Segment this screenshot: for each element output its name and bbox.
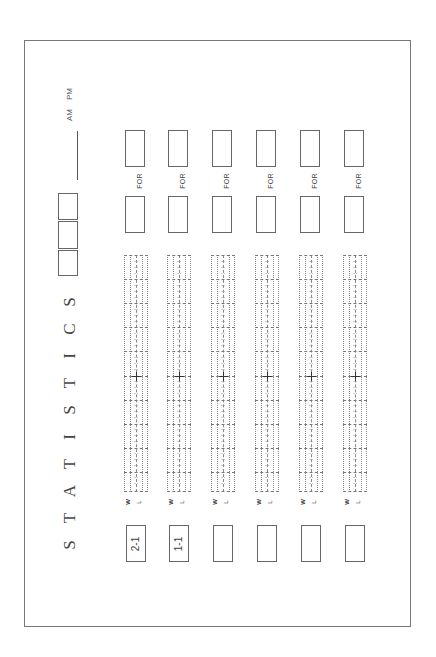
time-line[interactable] — [77, 131, 78, 180]
grid-minor-line — [309, 459, 313, 460]
result-box-5[interactable] — [301, 525, 321, 562]
grid-minor-line — [177, 441, 181, 442]
crosshair-icon — [179, 372, 180, 381]
grid-minor-line — [353, 429, 357, 430]
grid-inner-line — [130, 255, 131, 492]
grid-minor-line — [265, 321, 269, 322]
grid-major-line — [211, 351, 235, 352]
pm-label[interactable]: PM — [64, 82, 76, 106]
grid-minor-line — [353, 405, 357, 406]
grid-minor-line — [221, 321, 225, 322]
grid-minor-line — [221, 381, 225, 382]
grid-major-line — [124, 279, 148, 280]
grid-minor-line — [134, 309, 138, 310]
grid-minor-line — [221, 387, 225, 388]
score-box-top-6[interactable] — [344, 130, 364, 167]
grid-minor-line — [265, 345, 269, 346]
loss-label: L — [135, 498, 143, 506]
result-text — [217, 526, 229, 562]
grid-minor-line — [177, 339, 181, 340]
score-box-top-1[interactable] — [125, 130, 145, 167]
score-box-for-1[interactable] — [125, 196, 145, 233]
grid-minor-line — [309, 261, 313, 262]
grid-minor-line — [134, 411, 138, 412]
score-box-top-2[interactable] — [168, 130, 188, 167]
grid-minor-line — [221, 261, 225, 262]
score-box-for-5[interactable] — [300, 196, 320, 233]
grid-minor-line — [221, 339, 225, 340]
tally-grid-2[interactable] — [167, 255, 191, 492]
score-box-for-6[interactable] — [344, 196, 364, 233]
grid-minor-line — [177, 429, 181, 430]
grid-minor-line — [221, 369, 225, 370]
grid-major-line — [211, 472, 235, 473]
result-box-6[interactable] — [345, 525, 365, 562]
title-letter: T — [60, 373, 80, 393]
grid-minor-line — [221, 459, 225, 460]
grid-minor-line — [134, 465, 138, 466]
grid-minor-line — [177, 363, 181, 364]
grid-minor-line — [353, 477, 357, 478]
grid-minor-line — [309, 357, 313, 358]
grid-major-line — [255, 491, 279, 492]
grid-inner-line — [261, 255, 262, 492]
grid-minor-line — [134, 339, 138, 340]
date-box-2[interactable] — [58, 221, 78, 249]
grid-major-line — [299, 351, 323, 352]
grid-minor-line — [177, 381, 181, 382]
score-box-for-4[interactable] — [256, 196, 276, 233]
grid-major-line — [167, 351, 191, 352]
grid-minor-line — [353, 387, 357, 388]
grid-minor-line — [177, 357, 181, 358]
grid-major-line — [343, 491, 367, 492]
grid-minor-line — [134, 381, 138, 382]
score-box-for-2[interactable] — [168, 196, 188, 233]
score-box-top-3[interactable] — [212, 130, 232, 167]
result-text — [305, 526, 317, 562]
grid-major-line — [211, 255, 235, 256]
grid-major-line — [124, 303, 148, 304]
tally-grid-3[interactable] — [211, 255, 235, 492]
tally-grid-1[interactable] — [124, 255, 148, 492]
grid-minor-line — [177, 459, 181, 460]
grid-major-line — [343, 424, 367, 425]
tally-grid-4[interactable] — [255, 255, 279, 492]
grid-right-line — [190, 255, 191, 492]
grid-major-line — [299, 424, 323, 425]
grid-major-line — [343, 327, 367, 328]
grid-minor-line — [177, 465, 181, 466]
grid-inner-line — [305, 255, 306, 492]
grid-minor-line — [177, 267, 181, 268]
title-letter: I — [60, 427, 80, 447]
grid-minor-line — [353, 297, 357, 298]
date-box-3[interactable] — [58, 250, 78, 276]
result-box-3[interactable] — [213, 525, 233, 562]
tally-grid-6[interactable] — [343, 255, 367, 492]
am-label[interactable]: AM — [64, 103, 76, 127]
date-box-1[interactable] — [58, 193, 78, 220]
loss-label: L — [222, 498, 230, 506]
grid-minor-line — [353, 417, 357, 418]
grid-minor-line — [134, 429, 138, 430]
score-box-top-4[interactable] — [256, 130, 276, 167]
result-box-1[interactable]: 2-1 — [126, 525, 146, 562]
grid-minor-line — [265, 393, 269, 394]
score-box-for-3[interactable] — [212, 196, 232, 233]
grid-minor-line — [309, 411, 313, 412]
tally-grid-5[interactable] — [299, 255, 323, 492]
grid-minor-line — [309, 405, 313, 406]
grid-minor-line — [265, 465, 269, 466]
for-label: FOR — [222, 171, 232, 191]
score-box-top-5[interactable] — [300, 130, 320, 167]
grid-minor-line — [177, 321, 181, 322]
grid-minor-line — [309, 345, 313, 346]
grid-minor-line — [265, 315, 269, 316]
grid-minor-line — [134, 285, 138, 286]
grid-minor-line — [309, 273, 313, 274]
result-box-2[interactable]: 1-1 — [169, 525, 189, 562]
result-box-4[interactable] — [257, 525, 277, 562]
grid-minor-line — [265, 285, 269, 286]
grid-major-line — [124, 255, 148, 256]
grid-minor-line — [309, 309, 313, 310]
grid-minor-line — [177, 411, 181, 412]
